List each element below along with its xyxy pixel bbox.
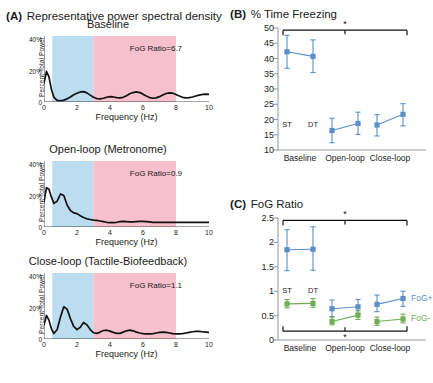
series-connector (377, 299, 403, 305)
psd-x-tick: 8 (174, 229, 178, 236)
data-point-marker (310, 54, 315, 59)
dotplot-x-tick: Open-loop (325, 153, 365, 163)
series-connector (332, 315, 358, 321)
dotplot-svg: ** (278, 218, 430, 342)
panel-a: (A) Representative power spectral densit… (0, 0, 216, 383)
fog-ratio-annotation: FoG Ratio=6.7 (130, 44, 182, 53)
psd-x-tick: 4 (108, 104, 112, 111)
panel-c-header: (C) FoG Ratio (230, 194, 303, 212)
panel-b-header: (B) % Time Freezing (230, 4, 337, 22)
panel-b-title: % Time Freezing (251, 8, 337, 20)
psd-title: Open-loop (Metronome) (0, 143, 216, 155)
data-point-marker (374, 302, 379, 307)
dotplot-y-tick: 30 (264, 84, 274, 94)
fog-ratio-annotation: FoG Ratio=0.9 (130, 169, 182, 178)
psd-y-axis-label: Percent Total Power (8, 32, 74, 102)
psd-x-tick: 6 (141, 341, 145, 348)
dotplot-x-tick: Baseline (284, 343, 317, 353)
psd-x-tick: 10 (205, 229, 213, 236)
dotplot-y-tick: 1 (269, 286, 274, 296)
psd-y-axis-label: Percent Total Power (8, 157, 74, 227)
psd-plot-area: 020%40%0246810Percent Total PowerFrequen… (44, 273, 209, 339)
psd-x-tick: 0 (42, 104, 46, 111)
data-point-marker (355, 304, 360, 309)
dotplot-y-tick: 1.5 (261, 262, 274, 272)
series-connector (377, 319, 403, 321)
data-point-marker (355, 121, 360, 126)
psd-x-tick: 6 (141, 229, 145, 236)
legend-label-FoGplus: FoG+ (411, 293, 433, 303)
data-point-marker (400, 112, 405, 117)
significance-marker: * (343, 19, 347, 29)
psd-x-tick: 2 (75, 341, 79, 348)
series-connector (332, 123, 358, 130)
dotplot-y-tick: 40 (264, 54, 274, 64)
dotplot-y-tick: 20 (264, 115, 274, 125)
psd-title: Baseline (0, 18, 216, 30)
data-point-marker (329, 128, 334, 133)
series-connector (332, 307, 358, 309)
dotplot-y-tick: 0.5 (261, 311, 274, 321)
psd-x-tick: 4 (108, 341, 112, 348)
subcondition-label-st: ST (282, 120, 292, 129)
psd-x-axis-label: Frequency (Hz) (95, 349, 157, 359)
dotplot-x-tick: Baseline (284, 153, 317, 163)
psd-y-axis-label: Percent Total Power (8, 269, 74, 339)
psd-plot-area: 020%40%0246810Percent Total PowerFrequen… (44, 36, 209, 102)
psd-x-tick: 2 (75, 104, 79, 111)
data-point-marker (284, 247, 289, 252)
psd-x-tick: 8 (174, 104, 178, 111)
figure-caption-cropped (6, 375, 126, 383)
data-point-marker (284, 49, 289, 54)
panel-c-title: FoG Ratio (251, 198, 303, 210)
subcondition-label-dt: DT (308, 120, 318, 129)
dotplot-y-tick: 0 (269, 335, 274, 345)
panel-b-tag: (B) (230, 8, 246, 20)
series-connector (377, 114, 403, 125)
psd-title: Close-loop (Tactile-Biofeedback) (0, 255, 216, 267)
data-point-marker (284, 301, 289, 306)
psd-x-tick: 0 (42, 229, 46, 236)
dotplot-x-tick: Close-loop (370, 343, 411, 353)
fog-ratio-annotation: FoG Ratio=1.1 (130, 281, 182, 290)
psd-x-tick: 0 (42, 341, 46, 348)
pct-time-freezing-chart: *101520253035404550BaselineOpen-loopClos… (278, 28, 412, 150)
data-point-marker (355, 313, 360, 318)
panel-b: (B) % Time Freezing *101520253035404550B… (216, 0, 432, 192)
dotplot-y-tick: 50 (264, 23, 274, 33)
dotplot-y-tick: 35 (264, 69, 274, 79)
psd-x-axis-label: Frequency (Hz) (95, 112, 157, 122)
significance-marker: * (343, 332, 347, 342)
fog-ratio-chart: **00.511.522.5BaselineOpen-loopClose-loo… (278, 218, 412, 340)
psd-x-tick: 10 (205, 104, 213, 111)
panel-c: (C) FoG Ratio **00.511.522.5BaselineOpen… (216, 190, 432, 383)
dotplot-y-tick: 45 (264, 38, 274, 48)
psd-block-2: Open-loop (Metronome)020%40%0246810Perce… (0, 143, 216, 255)
dotplot-x-tick: Open-loop (325, 343, 365, 353)
panel-c-tag: (C) (230, 198, 246, 210)
data-point-marker (310, 301, 315, 306)
data-point-marker (400, 296, 405, 301)
dotplot-y-tick: 10 (264, 145, 274, 155)
legend-label-FoGminus: FoG- (411, 313, 430, 323)
psd-block-1: Baseline020%40%0246810Percent Total Powe… (0, 18, 216, 130)
data-point-marker (400, 316, 405, 321)
series-connector (287, 52, 313, 57)
data-point-marker (329, 319, 334, 324)
data-point-marker (374, 319, 379, 324)
psd-x-tick: 6 (141, 104, 145, 111)
dotplot-x-tick: Close-loop (370, 153, 411, 163)
dotplot-y-tick: 15 (264, 130, 274, 140)
psd-x-tick: 2 (75, 229, 79, 236)
subcondition-label-dt: DT (308, 286, 318, 295)
data-point-marker (329, 306, 334, 311)
psd-block-3: Close-loop (Tactile-Biofeedback)020%40%0… (0, 255, 216, 367)
dotplot-y-tick: 25 (264, 99, 274, 109)
significance-marker: * (343, 209, 347, 219)
data-point-marker (374, 122, 379, 127)
dotplot-svg: * (278, 28, 430, 152)
psd-plot-area: 020%40%0246810Percent Total PowerFrequen… (44, 161, 209, 227)
subcondition-label-st: ST (282, 286, 292, 295)
psd-x-axis-label: Frequency (Hz) (95, 237, 157, 247)
